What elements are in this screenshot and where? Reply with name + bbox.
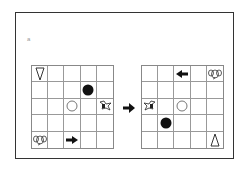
grid-cell <box>158 82 174 98</box>
grid-cell <box>97 132 113 148</box>
grid-cell <box>64 82 80 98</box>
grid-cell <box>158 132 174 148</box>
grid-cell <box>48 115 64 131</box>
grid-cell <box>158 66 174 82</box>
grid-cell <box>207 82 223 98</box>
grid-cell <box>207 132 223 148</box>
grid-cell <box>32 82 48 98</box>
grid-after <box>141 65 224 149</box>
grid-cell <box>32 115 48 131</box>
black-circle-icon <box>160 117 172 129</box>
grid-cell <box>64 115 80 131</box>
grid-cell <box>174 115 190 131</box>
grid-cell <box>142 99 158 115</box>
grid-cell <box>158 115 174 131</box>
arrow-right-icon <box>66 136 78 144</box>
grid-cell <box>174 82 190 98</box>
grid-cell <box>97 99 113 115</box>
arrow-left-icon <box>176 70 188 78</box>
grid-cell <box>81 132 97 148</box>
grid-cell <box>81 99 97 115</box>
grid-cell <box>191 132 207 148</box>
grid-cell <box>48 82 64 98</box>
grid-cell <box>32 66 48 82</box>
transform-arrow-icon <box>123 103 135 113</box>
grid-cell <box>191 66 207 82</box>
grid-cell <box>174 99 190 115</box>
grid-cell <box>32 132 48 148</box>
triangle-up-icon <box>210 133 220 147</box>
grid-cell <box>81 115 97 131</box>
grid-cell <box>64 132 80 148</box>
grid-cell <box>81 82 97 98</box>
triangle-down-icon <box>35 67 45 81</box>
black-circle-icon <box>82 84 94 96</box>
bird-icon <box>143 100 157 112</box>
grid-cell <box>48 132 64 148</box>
grid-cell <box>191 115 207 131</box>
grid-cell <box>191 82 207 98</box>
white-circle-icon <box>176 100 188 112</box>
grid-cell <box>174 132 190 148</box>
grid-cell <box>64 99 80 115</box>
bird-icon <box>98 100 112 112</box>
grid-before <box>31 65 114 149</box>
grid-cell <box>81 66 97 82</box>
grid-cell <box>142 132 158 148</box>
grid-cell <box>142 115 158 131</box>
grid-cell <box>64 66 80 82</box>
grid-cell <box>158 99 174 115</box>
grid-cell <box>142 66 158 82</box>
grid-cell <box>174 66 190 82</box>
grid-cell <box>97 115 113 131</box>
grid-cell <box>207 99 223 115</box>
grid-cell <box>142 82 158 98</box>
grid-cell <box>97 82 113 98</box>
grid-cell <box>207 115 223 131</box>
figure-label: a <box>27 36 30 42</box>
grid-cell <box>48 66 64 82</box>
grid-cell <box>48 99 64 115</box>
white-circle-icon <box>66 100 78 112</box>
grid-cell <box>32 99 48 115</box>
grid-cell <box>191 99 207 115</box>
elephant-icon <box>208 68 222 80</box>
grid-cell <box>97 66 113 82</box>
elephant-icon <box>33 134 47 146</box>
grid-cell <box>207 66 223 82</box>
